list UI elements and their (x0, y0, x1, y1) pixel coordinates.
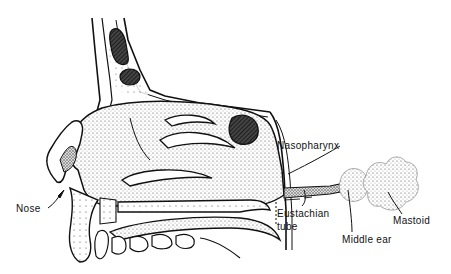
eustachian-tube (284, 184, 340, 198)
sphenoid-sinus (229, 115, 258, 144)
frontal-sinus-lower (120, 69, 140, 85)
label-nasopharynx: Nasopharynx (277, 140, 339, 151)
mastoid (363, 157, 418, 210)
label-eustachian-line2: tube (277, 221, 298, 232)
nasal-anatomy-diagram (0, 0, 451, 274)
upper-lip (69, 188, 98, 262)
label-eustachian-line1: Eustachian (277, 208, 329, 219)
label-mastoid: Mastoid (393, 215, 430, 226)
label-middle-ear: Middle ear (342, 234, 392, 245)
label-nose: Nose (16, 203, 41, 214)
